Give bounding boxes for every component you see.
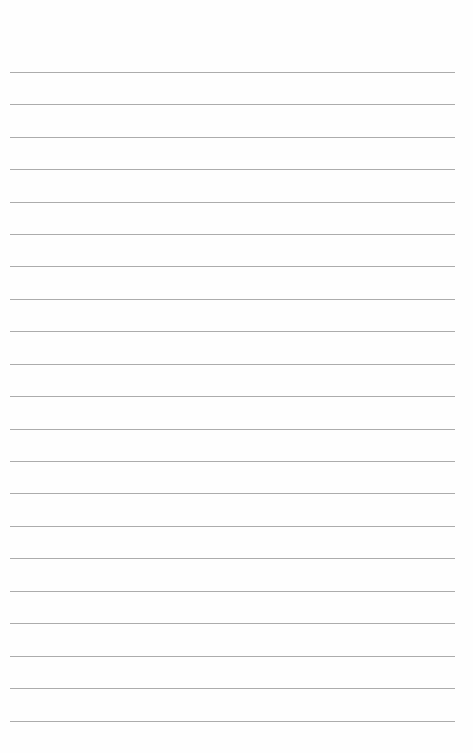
ruled-line [10, 72, 455, 73]
ruled-line [10, 364, 455, 365]
ruled-line [10, 234, 455, 235]
ruled-line [10, 721, 455, 722]
ruled-line [10, 331, 455, 332]
ruled-line [10, 591, 455, 592]
ruled-line [10, 493, 455, 494]
ruled-line [10, 104, 455, 105]
ruled-line [10, 396, 455, 397]
ruled-line [10, 169, 455, 170]
ruled-line [10, 558, 455, 559]
ruled-line [10, 202, 455, 203]
ruled-line [10, 299, 455, 300]
ruled-line [10, 137, 455, 138]
ruled-line [10, 266, 455, 267]
ruled-line [10, 623, 455, 624]
ruled-line [10, 688, 455, 689]
lined-paper-page [0, 0, 473, 753]
ruled-line [10, 656, 455, 657]
ruled-line [10, 526, 455, 527]
ruled-line [10, 461, 455, 462]
ruled-line [10, 429, 455, 430]
